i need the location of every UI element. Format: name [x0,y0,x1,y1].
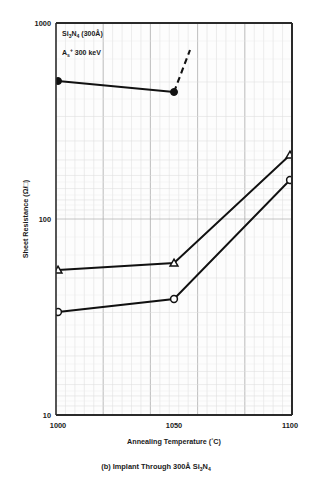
data-point-marker [171,89,178,96]
xaxis-title: Annealing Temperature (°C) [127,437,221,446]
caption-main: (b) Implant Through 300Å Si [101,462,200,471]
xtick-label-1000: 1000 [50,421,66,430]
caption-sub-4: 4 [208,466,211,472]
annot-thickness: (300Å) [79,29,102,38]
xtick-label-1100: 1100 [282,421,298,430]
ytick-label-1000: 1000 [35,19,51,28]
xaxis-title-post: C) [213,437,221,446]
yaxis-title-pre: Sheet Resistance ( [21,194,30,259]
chart-svg: 1000 100 10 1000 1050 1100 Sheet Resista… [0,0,313,488]
svg-text:Sheet Resistance (Ω/□): Sheet Resistance (Ω/□) [21,179,30,258]
yaxis-title-unit: Ω/□ [21,182,30,195]
data-point-marker [171,296,178,303]
figure-container: 1000 100 10 1000 1050 1100 Sheet Resista… [0,0,313,488]
xaxis-title-main: Annealing Temperature ( [127,437,212,446]
xtick-label-1050: 1050 [166,421,182,430]
yaxis-title: Sheet Resistance (Ω/□) [21,179,30,258]
ytick-label-10: 10 [43,411,51,420]
ytick-label-100: 100 [39,215,51,224]
annot-energy: 300 keV [73,49,101,56]
figure-caption: (b) Implant Through 300Å Si3N4 [101,462,211,472]
